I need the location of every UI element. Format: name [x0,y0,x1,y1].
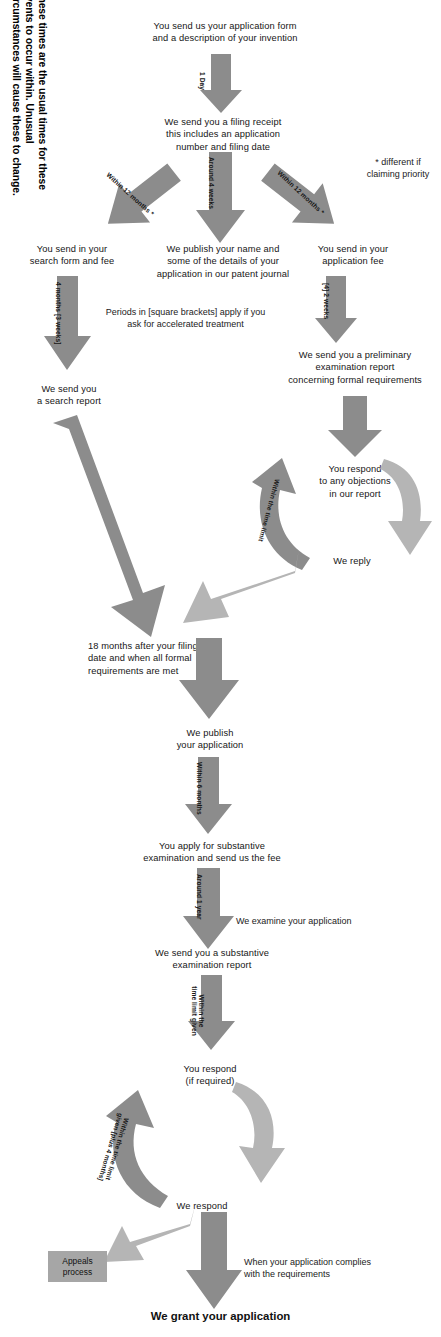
node-substantive-report: We send you a substantive examination re… [128,947,296,972]
node-apply-substantive: You apply for substantive examination an… [122,840,302,865]
note-complies: When your application complies with the … [244,1256,440,1280]
arrow-loop-top-right [380,455,440,565]
arrow-label-around-4-weeks: Around 4 weeks [208,157,215,209]
node-appeals-process: Appeals process [48,1251,107,1282]
arrow-around-1-year [183,868,235,950]
arrow-prelim-to-respond [327,396,383,458]
arrow-label-two-weeks: [4] 2 weeks [323,283,330,319]
arrow-label-within-6-months: Within 6 months [196,762,203,815]
arrow-two-weeks [314,276,358,344]
arrow-within-6-months [185,757,233,835]
node-prelim-report: We send you a preliminary examination re… [272,349,438,386]
flowchart-canvas: These times are the usual times for thes… [0,0,441,1337]
node-publish-journal: We publish your name and some of the det… [136,243,310,280]
node-search-form: You send in your search form and fee [7,243,137,268]
arrow-to-we-publish [178,638,240,720]
node-filing-receipt: We send you a filing receipt this includ… [133,116,313,153]
node-search-report: We send you a search report [10,383,128,408]
node-grant: We grant your application [0,1310,441,1322]
arrow-loop-to-publication [173,545,303,635]
arrow-around-4-weeks [196,152,246,244]
side-banner-note: These times are the usual times for thes… [10,0,49,205]
arrow-label-one-day: 1 Day [199,72,206,90]
arrow-label-four-months-3-weeks: 4 months [3 weeks] [55,282,62,345]
node-we-reply: We reply [305,555,399,567]
arrow-label-around-1-year: Around 1 year [196,874,203,920]
arrow-label-within-time-limit-given: Within the time limit given [190,980,205,1042]
node-start: You send us your application form and a … [125,20,325,45]
arrow-to-grant [185,1212,243,1310]
note-square-brackets: Periods in [square brackets] apply if yo… [83,306,288,330]
note-priority: * different if claiming priority [358,156,438,180]
node-we-publish: We publish your application [155,727,265,752]
arrow-search-report-to-publication [47,415,177,645]
node-application-fee: You send in your application fee [298,243,408,268]
arrow-loop-bottom-right [232,1080,292,1192]
appeals-process-label: Appeals process [62,1256,92,1278]
note-we-examine: We examine your application [236,915,416,927]
